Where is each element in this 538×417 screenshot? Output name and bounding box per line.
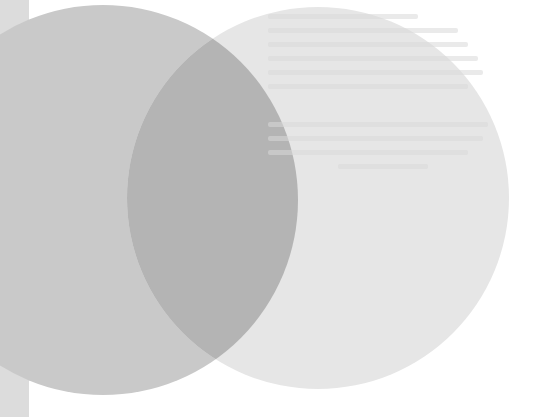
illustration-canvas [0, 0, 538, 417]
ghost-text-line [268, 136, 483, 141]
ghost-text-line [268, 84, 468, 89]
ghost-text-line [268, 14, 418, 19]
ghost-text-line [268, 150, 468, 155]
ghost-text-line [268, 56, 478, 61]
ghost-text-line [268, 70, 483, 75]
ghost-text-line [268, 28, 458, 33]
ghost-text-line [338, 164, 428, 169]
ghost-text-line [268, 122, 488, 127]
faint-bleedthrough-text [268, 14, 508, 214]
ghost-text-line [268, 42, 468, 47]
